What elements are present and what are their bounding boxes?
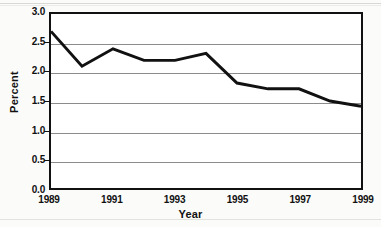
chart-figure: 0.00.51.01.52.02.53.0 Percent 1989199119… — [0, 0, 381, 227]
scan-artifact-line — [0, 3, 381, 4]
x-axis-tick-label: 1999 — [343, 194, 381, 205]
plot-area — [49, 12, 363, 190]
x-axis-tick-label: 1995 — [217, 194, 257, 205]
y-axis-label: Percent — [8, 52, 20, 132]
x-axis-tick-label: 1991 — [92, 194, 132, 205]
y-axis-tick-label: 0.5 — [5, 155, 45, 165]
y-axis-tick-label: 2.5 — [5, 37, 45, 47]
x-axis-label: Year — [0, 208, 381, 220]
scan-artifact-line — [0, 5, 381, 6]
x-axis-tick-label: 1993 — [155, 194, 195, 205]
line-series — [51, 14, 361, 188]
x-axis-tick-label: 1997 — [280, 194, 320, 205]
y-axis-tick-label: 3.0 — [5, 7, 45, 17]
x-axis-tick-label: 1989 — [29, 194, 69, 205]
series-polyline — [51, 31, 361, 106]
